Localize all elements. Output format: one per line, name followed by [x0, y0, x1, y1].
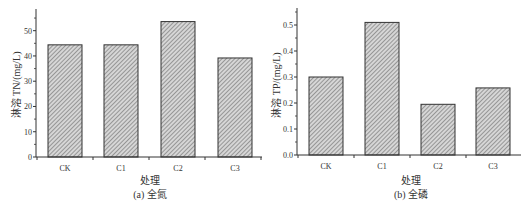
x-axis: CKC1C2C3 [297, 155, 521, 171]
y-axis: 01020304050 [24, 9, 36, 162]
x-axis-title: 处理 [140, 175, 160, 186]
x-axis-title: 处理 [401, 175, 421, 186]
bar-c2 [161, 22, 195, 157]
chart-total-phosphorus: 0.00.10.20.30.40.5 CKC1C2C3 淋溶 TP/(mg/L)… [270, 8, 521, 201]
x-tick-label: C2 [173, 164, 182, 173]
y-tick-label: 20 [24, 102, 32, 111]
charts-canvas: 01020304050 CKC1C2C3 淋溶 TN/(mg/L) 处理 (a)… [0, 0, 531, 211]
y-axis: 0.00.10.20.30.40.5 [283, 8, 297, 160]
y-axis-title: 淋溶 TN/(mg/L) [10, 52, 23, 119]
y-tick-label: 0.2 [283, 99, 293, 108]
chart-caption: (a) 全氮 [133, 188, 167, 201]
y-axis-title: 淋溶 TP/(mg/L) [270, 52, 283, 117]
bar-c1 [365, 22, 399, 155]
bars [48, 22, 252, 157]
bar-ck [48, 45, 82, 157]
bars [309, 22, 510, 155]
y-tick-label: 0.4 [283, 47, 293, 56]
y-tick-label: 0.5 [283, 21, 293, 30]
bar-ck [309, 77, 343, 155]
x-tick-label: CK [320, 162, 331, 171]
y-tick-label: 0.3 [283, 73, 293, 82]
y-tick-label: 30 [24, 77, 32, 86]
x-tick-label: C1 [377, 162, 386, 171]
x-tick-label: CK [59, 164, 70, 173]
x-tick-label: C3 [488, 162, 497, 171]
chart-caption: (b) 全磷 [394, 188, 428, 201]
y-tick-label: 10 [24, 128, 32, 137]
x-tick-label: C3 [230, 164, 239, 173]
x-tick-label: C1 [116, 164, 125, 173]
bar-c1 [104, 45, 138, 157]
y-tick-label: 0.0 [283, 151, 293, 160]
chart-total-nitrogen: 01020304050 CKC1C2C3 淋溶 TN/(mg/L) 处理 (a)… [10, 9, 262, 201]
y-tick-label: 0 [28, 153, 32, 162]
bar-c3 [218, 58, 252, 157]
x-tick-label: C2 [433, 162, 442, 171]
y-tick-label: 50 [24, 27, 32, 36]
bar-c3 [476, 88, 510, 155]
y-tick-label: 0.1 [283, 125, 293, 134]
x-axis: CKC1C2C3 [36, 157, 262, 173]
y-tick-label: 40 [24, 52, 32, 61]
bar-c2 [421, 104, 455, 155]
